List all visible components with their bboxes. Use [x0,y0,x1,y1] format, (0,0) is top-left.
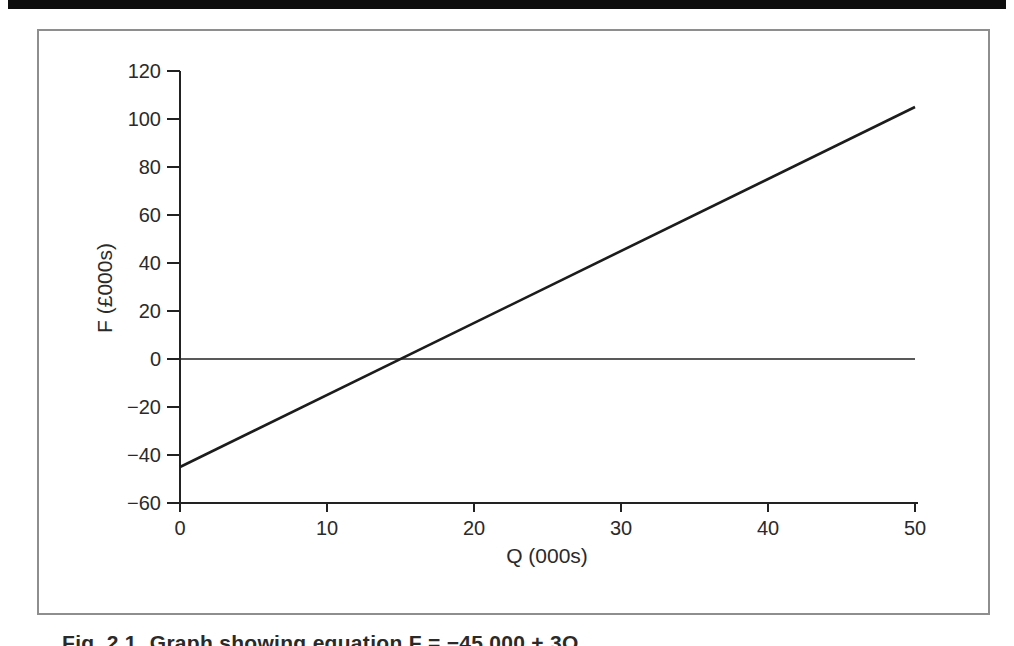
y-tick-label: 120 [128,60,161,82]
y-tick-label: 40 [139,252,161,274]
figure-caption-text: Graph showing equation F = −45,000 + 3Q [150,631,579,646]
x-tick-label: 10 [316,517,338,539]
series-line [180,107,915,467]
y-tick-label: 80 [139,156,161,178]
x-tick-label: 20 [463,517,485,539]
scanned-page: 120100806040200−20−40−6001020304050 Q (0… [0,0,1014,646]
line-chart: 120100806040200−20−40−6001020304050 Q (0… [0,0,1014,646]
y-tick-label: 20 [139,300,161,322]
y-tick-label: −20 [127,396,161,418]
y-tick-label: 100 [128,108,161,130]
x-tick-label: 30 [610,517,632,539]
x-tick-label: 50 [904,517,926,539]
x-tick-label: 0 [174,517,185,539]
figure-caption-number: Fig. 2.1 [62,631,137,646]
y-tick-label: −60 [127,492,161,514]
y-tick-label: −40 [127,444,161,466]
chart-generated-layer: 120100806040200−20−40−6001020304050 [127,60,926,539]
x-tick-label: 40 [757,517,779,539]
y-tick-label: 0 [150,348,161,370]
figure-caption: Fig. 2.1Graph showing equation F = −45,0… [62,631,579,646]
y-tick-label: 60 [139,204,161,226]
y-axis-title: F (£000s) [93,243,116,333]
x-axis-title: Q (000s) [506,544,588,567]
